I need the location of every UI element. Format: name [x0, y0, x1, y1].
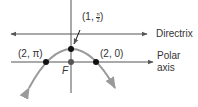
vertex-label-prefix: (1,: [82, 11, 96, 22]
label-pointer: [74, 30, 80, 44]
vertex-point-label: (1, π2): [82, 12, 103, 23]
directrix-label: Directrix: [156, 29, 193, 39]
right-point-label: (2, 0): [100, 49, 123, 59]
polar-axis-label-line1: Polar: [157, 51, 180, 61]
right-point-dot: [93, 59, 99, 65]
vertex-point-dot: [68, 46, 74, 52]
focus-label: F: [62, 66, 68, 76]
focus-dot: [68, 59, 74, 65]
parabola-diagram: (1, π2) (2, π) (2, 0) F Directrix Polar …: [0, 0, 198, 107]
polar-axis-label-line2: axis: [157, 63, 175, 73]
left-point-label: (2, π): [18, 49, 43, 59]
vertex-label-suffix: ): [100, 11, 103, 22]
left-point-dot: [43, 59, 49, 65]
